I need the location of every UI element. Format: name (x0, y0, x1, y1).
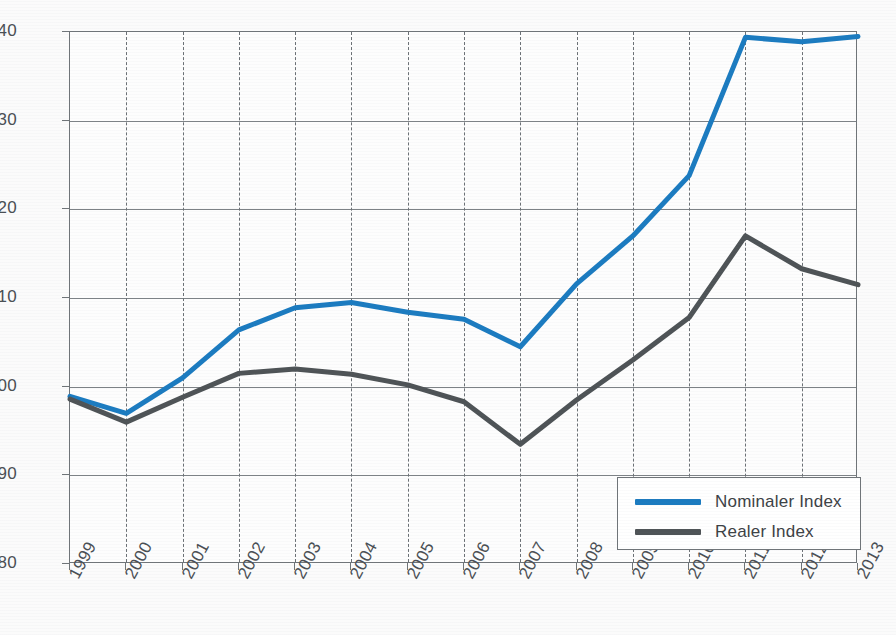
y-axis-tick-label: 80 (0, 553, 17, 573)
y-axis-tick-label: 130 (0, 110, 17, 130)
y-axis-tick-label: 120 (0, 198, 17, 218)
legend-item-real: Realer Index (618, 517, 860, 547)
series-line-real (70, 236, 858, 444)
y-axis-tick-label: 140 (0, 21, 17, 41)
legend-swatch-nominal (635, 499, 701, 505)
y-axis-tick-mark (62, 474, 69, 475)
legend-label-nominal: Nominaler Index (715, 492, 842, 512)
y-axis-tick-label: 110 (0, 287, 17, 307)
y-axis-tick-mark (62, 208, 69, 209)
chart-figure: 8090100110120130140 19992000200120022003… (0, 0, 896, 635)
y-axis-tick-mark (62, 120, 69, 121)
y-axis-tick-mark (62, 563, 69, 564)
series-line-nominal (70, 36, 858, 413)
y-axis-tick-label: 90 (0, 464, 17, 484)
chart-legend: Nominaler Index Realer Index (617, 477, 861, 550)
y-axis-tick-mark (62, 297, 69, 298)
legend-swatch-real (635, 529, 701, 535)
y-axis-tick-mark (62, 31, 69, 32)
legend-label-real: Realer Index (715, 522, 814, 542)
y-axis-tick-mark (62, 386, 69, 387)
legend-item-nominal: Nominaler Index (618, 487, 860, 517)
y-axis-tick-label: 100 (0, 376, 17, 396)
